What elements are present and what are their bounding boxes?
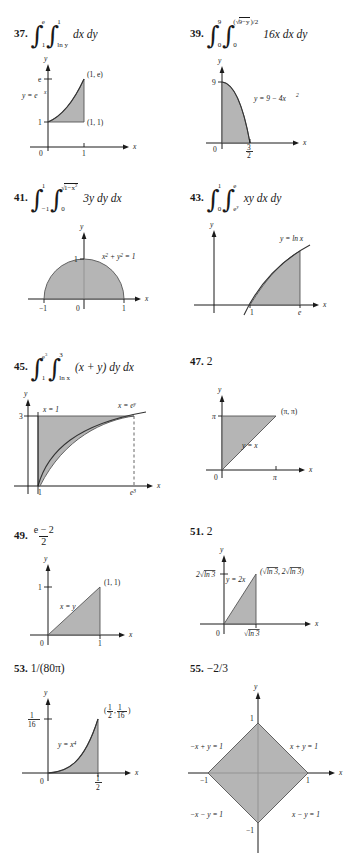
y-tick-1-37: 1 (38, 118, 42, 127)
inner-limits: (√9−y)/20 (233, 22, 258, 47)
curve-label-39: y = 9 − 4x (253, 94, 286, 103)
answer-55: 55.−2/3 (176, 662, 352, 675)
answer-41: 41.∫1−1∫√1−x203y dy dx (0, 186, 176, 211)
curve-label-45: x = ey (117, 401, 136, 411)
svg-text:16: 16 (28, 720, 36, 729)
integral-expression-45: ∫e31∫3ln x(x + y) dy dx (31, 355, 134, 380)
axis-y-label-47: y (217, 385, 222, 394)
curve-label-41: x2 + y2 = 1 (101, 252, 136, 262)
answer-value-53: 1/(80π) (31, 662, 65, 674)
figure-53: x y 1 16 1 2 (12, 685, 176, 793)
edge-label-55-3: x − y = 1 (291, 810, 320, 819)
integral-expression-43: ∫10∫eeyxy dx dy (207, 186, 282, 211)
origin-label-37: 0 (39, 149, 43, 158)
line-label-x-equals-1: x = 1 (42, 405, 59, 414)
origin-label-39: 0 (213, 145, 217, 154)
problem-block-45: 45.∫e31∫3ln x(x + y) dy dx x y 3 1 (0, 355, 176, 500)
answer-45: 45.∫e31∫3ln x(x + y) dy dx (0, 355, 176, 380)
curve-label-37: y = e (21, 91, 38, 100)
edge-label-55-1: x + y = 1 (289, 742, 318, 751)
y-tick-e-37: e (38, 75, 42, 84)
x-tick-3-over-2-39: 3 2 (246, 143, 253, 160)
outer-limits: e1 (42, 22, 46, 47)
svg-text:2: 2 (296, 92, 299, 98)
x-tick-neg1-55: −1 (200, 776, 208, 785)
problem-number-37: 37. (14, 27, 28, 39)
figure-49: x y 1 1 0 (1, 1) x = y (18, 555, 176, 651)
axis-x-label-47: x (308, 465, 313, 474)
axis-y-label-41: y (79, 222, 84, 231)
answer-key-page: 37.∫e1∫1ln ydx dy x y e 1 1 (0, 0, 352, 866)
origin-label-47: 0 (214, 473, 218, 482)
problem-block-49: 49.e − 22 x y 1 1 0 (1, 1) x = (0, 525, 176, 651)
axis-y-label-55: y (253, 682, 258, 691)
svg-text:): ) (128, 706, 131, 715)
problem-number-45: 45. (14, 360, 28, 372)
inner-lower-43: ey (233, 204, 238, 214)
problem-number-41: 41. (14, 191, 28, 203)
x-tick-neg1-41: −1 (39, 304, 47, 313)
problem-block-37: 37.∫e1∫1ln ydx dy x y e 1 1 (0, 22, 176, 157)
y-tick-pi-47: π (212, 412, 216, 421)
axis-x-label-37: x (132, 142, 137, 151)
axis-y-label-39: y (217, 56, 222, 65)
point-label-11: (1, 1) (87, 118, 104, 127)
y-tick-3-45: 3 (19, 412, 23, 421)
answer-value-51: 2 (207, 525, 213, 537)
x-tick-1-over-2-53: 1 2 (95, 774, 102, 792)
problem-row-41-43: 41.∫1−1∫√1−x203y dy dx x y 1 −1 1 (0, 186, 352, 319)
svg-text:,: , (114, 706, 116, 715)
integrand-43: xy dx dy (244, 192, 282, 205)
figure-51: x y 2√ln 3 √ln 3 0 (√ln 3, 2√ln 3) y = 2… (182, 546, 352, 642)
point-label-53: ( 1 2 , 1 16 ) (104, 703, 131, 720)
problem-block-51: 51.2 x y 2√ln 3 √ln 3 0 (√ln 3, 2√ln 3) (176, 525, 352, 651)
x-tick-pi-47: π (273, 473, 277, 482)
origin-label-51: 0 (216, 629, 220, 638)
x-tick-1-55: 1 (306, 776, 310, 785)
inner-upper-39: (√9−y)/2 (233, 19, 258, 27)
inner-limits: √1−x20 (61, 186, 78, 211)
figure-45: x y 3 1 e3 x = 1 x = ey (8, 388, 176, 500)
svg-text:16: 16 (117, 711, 125, 720)
answer-49: 49.e − 22 (0, 525, 176, 547)
axis-y-label-53: y (43, 688, 48, 697)
origin-label-53: 0 (40, 777, 44, 786)
svg-text:2: 2 (96, 783, 100, 792)
svg-text:2: 2 (108, 711, 112, 720)
axis-x-label-53: x (134, 768, 139, 777)
answer-value-47: 2 (207, 355, 213, 367)
y-tick-9-39: 9 (212, 78, 216, 87)
y-tick-1-55: 1 (250, 714, 254, 723)
integral-expression-37: ∫e1∫1ln ydx dy (31, 22, 98, 47)
origin-label-41: 0 (76, 304, 80, 313)
answer-value-55: −2/3 (207, 662, 228, 674)
inner-limits: 3ln x (59, 355, 70, 380)
axis-x-label-49: x (128, 630, 133, 639)
problem-number-55: 55. (190, 662, 204, 674)
curve-label-51: y = 2x (225, 575, 246, 584)
problem-block-43: 43.∫10∫eeyxy dx dy x y 1 e y = ln x (176, 186, 352, 319)
axis-y-label-51: y (219, 545, 224, 554)
integral-expression-39: ∫90∫(√9−y)/2016x dx dy (207, 22, 308, 47)
x-tick-1-45: 1 (38, 488, 42, 497)
figure-37: x y e 1 1 0 y = e x (1, e) (1, 1) (16, 53, 176, 157)
answer-53: 53.1/(80π) (0, 662, 176, 675)
figure-39: x y 9 0 3 2 y = 9 − 4x 2 (192, 55, 352, 155)
problem-number-47: 47. (190, 355, 204, 367)
integrand-45: (x + y) dy dx (75, 361, 134, 374)
answer-fraction-49: e − 22 (32, 525, 56, 547)
point-label-pipi: (π, π) (281, 407, 298, 416)
y-tick-1-over-16-53: 1 16 (28, 711, 40, 729)
edge-label-55-0: −x + y = 1 (190, 742, 223, 751)
problem-row-45-47: 45.∫e31∫3ln x(x + y) dy dx x y 3 1 (0, 355, 352, 500)
problem-row-49-51: 49.e − 22 x y 1 1 0 (1, 1) x = (0, 525, 352, 651)
x-tick-1-43: 1 (250, 308, 254, 317)
answer-47: 47.2 (176, 355, 352, 368)
integrand-39: 16x dx dy (263, 28, 307, 41)
inner-upper-41: √1−x2 (61, 183, 78, 193)
svg-text:1: 1 (96, 774, 100, 783)
problem-block-55: 55.−2/3 x y 1 −1 −1 1 −x + y = 1 x + y =… (176, 662, 352, 861)
y-tick-1-41: 1 (74, 255, 78, 264)
axis-x-label-43: x (322, 300, 327, 309)
y-tick-neg1-55: −1 (246, 826, 254, 835)
